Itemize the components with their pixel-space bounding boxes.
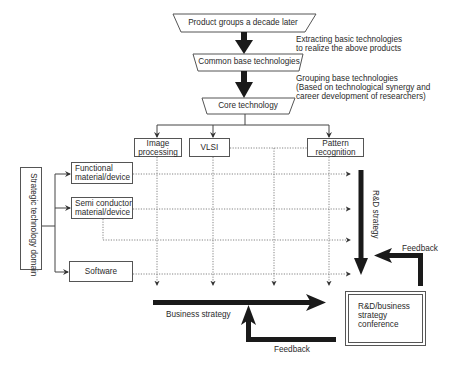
domain-item-line2: material/device bbox=[75, 173, 130, 182]
conference-line3: conference bbox=[358, 320, 399, 330]
strategic-domain-label: Strategic technology domain bbox=[29, 173, 38, 276]
core-technology-label: Core technology bbox=[205, 101, 291, 111]
feedback-right-arrow bbox=[374, 248, 423, 286]
business-strategy-arrow bbox=[153, 294, 326, 311]
domain-item-line1: Semi conductor bbox=[75, 199, 132, 208]
core-area-image-processing: Image processing bbox=[134, 138, 182, 157]
domain-item-software: Software bbox=[69, 261, 133, 282]
core-area-line1: Pattern bbox=[315, 139, 355, 148]
strategic-domain-box: Strategic technology domain bbox=[20, 167, 42, 270]
domain-item-line1: Software bbox=[85, 267, 117, 276]
core-area-line1: Image bbox=[138, 139, 178, 148]
domain-bracket bbox=[42, 174, 70, 272]
step1-note-line2: to realize the above products bbox=[296, 44, 401, 54]
domain-item-line2: material/device bbox=[75, 208, 132, 217]
domain-item-functional: Functional material/device bbox=[71, 162, 133, 184]
core-area-line2: recognition bbox=[315, 148, 355, 157]
domain-item-semiconductor: Semi conductor material/device bbox=[71, 197, 133, 219]
down-arrow-2 bbox=[235, 71, 253, 98]
dotted-grid bbox=[103, 148, 350, 285]
rd-strategy-arrow bbox=[354, 170, 368, 275]
rd-strategy-label: R&D strategy bbox=[371, 190, 380, 239]
domain-item-line1: Functional bbox=[75, 164, 130, 173]
feedback-right-label: Feedback bbox=[402, 244, 438, 254]
common-base-label: Common base technologies bbox=[196, 57, 302, 67]
business-strategy-label: Business strategy bbox=[166, 310, 231, 320]
step2-note-line3: career development of researchers) bbox=[296, 92, 426, 102]
core-area-line1: VLSI bbox=[201, 143, 219, 152]
down-arrow-1 bbox=[235, 32, 253, 54]
feedback-bottom-label: Feedback bbox=[274, 345, 310, 355]
core-connectors bbox=[157, 114, 329, 137]
core-area-pattern-recognition: Pattern recognition bbox=[307, 138, 364, 157]
feedback-bottom-arrow bbox=[241, 305, 336, 342]
core-area-vlsi: VLSI bbox=[189, 138, 230, 157]
core-area-line2: processing bbox=[138, 148, 178, 157]
product-groups-label: Product groups a decade later bbox=[181, 18, 305, 28]
